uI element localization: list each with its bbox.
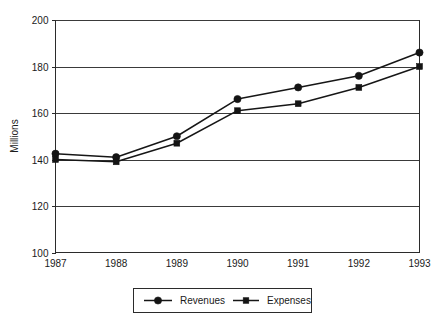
data-point-expenses-1987 bbox=[53, 157, 59, 163]
x-tick-label-1991: 1991 bbox=[287, 258, 310, 269]
x-tick-label-1992: 1992 bbox=[348, 258, 371, 269]
y-tick-label-180: 180 bbox=[32, 62, 49, 73]
x-tick-label-1989: 1989 bbox=[166, 258, 189, 269]
data-point-expenses-1990 bbox=[235, 108, 241, 114]
data-point-expenses-1989 bbox=[174, 140, 180, 146]
data-point-revenues-1987 bbox=[52, 150, 59, 157]
x-tick-label-1988: 1988 bbox=[105, 258, 128, 269]
y-tick-label-160: 160 bbox=[32, 108, 49, 119]
data-point-revenues-1989 bbox=[173, 133, 180, 140]
data-point-revenues-1990 bbox=[234, 95, 241, 102]
square-marker bbox=[243, 298, 249, 304]
y-axis-title: Millions bbox=[9, 119, 20, 152]
data-point-revenues-1991 bbox=[295, 84, 302, 91]
data-point-expenses-1988 bbox=[113, 159, 119, 165]
y-tick-label-120: 120 bbox=[32, 201, 49, 212]
y-tick-label-140: 140 bbox=[32, 155, 49, 166]
data-point-expenses-1991 bbox=[295, 101, 301, 107]
chart-legend: Revenues Expenses bbox=[134, 289, 312, 313]
data-point-revenues-1992 bbox=[355, 72, 362, 79]
data-point-expenses-1993 bbox=[417, 64, 423, 70]
data-point-revenues-1993 bbox=[416, 49, 423, 56]
y-tick-label-200: 200 bbox=[32, 15, 49, 26]
x-tick-label-1993: 1993 bbox=[408, 258, 431, 269]
line-chart: 100120140160180200 198719881989199019911… bbox=[0, 0, 443, 323]
legend-label-revenues: Revenues bbox=[180, 295, 225, 306]
x-tick-label-1987: 1987 bbox=[44, 258, 67, 269]
chart-canvas: 100120140160180200 198719881989199019911… bbox=[0, 0, 443, 323]
x-tick-label-1990: 1990 bbox=[226, 258, 249, 269]
data-point-expenses-1992 bbox=[356, 85, 362, 91]
circle-marker bbox=[154, 297, 161, 304]
chart-background bbox=[0, 0, 443, 323]
legend-label-expenses: Expenses bbox=[267, 295, 311, 306]
